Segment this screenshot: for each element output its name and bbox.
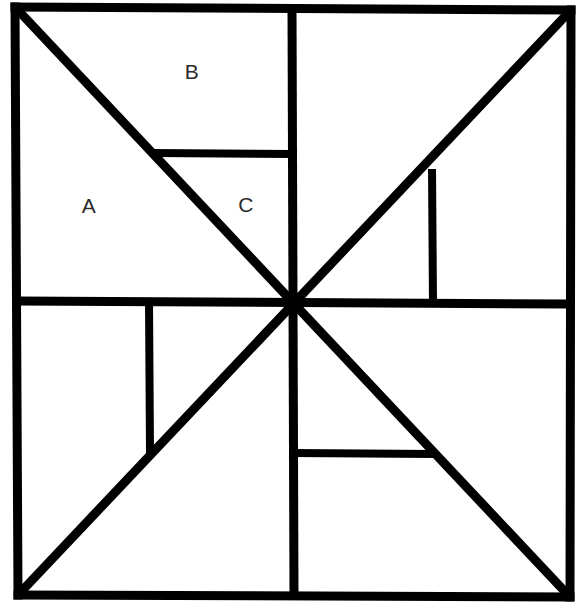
segment-bottom-left-vertical (149, 301, 150, 453)
square-dissection-figure (0, 0, 578, 612)
segment-bottom-right-horizontal (293, 453, 434, 454)
region-label-c: C (238, 193, 254, 217)
segment-top-right-vertical (432, 169, 433, 304)
segment-top-left-horizontal (152, 153, 292, 154)
region-label-a: A (82, 194, 97, 218)
region-label-b: B (185, 60, 200, 84)
center-vertex-node (285, 295, 301, 311)
border-right-edge (570, 10, 571, 597)
diagram-canvas: A B C (0, 0, 578, 612)
